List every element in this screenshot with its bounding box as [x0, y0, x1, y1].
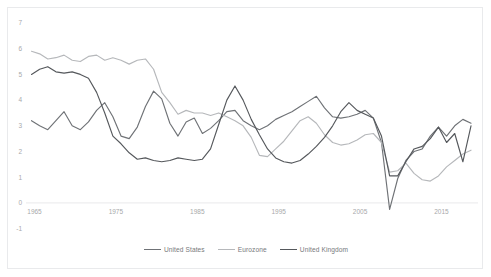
y-axis-tick-labels: 76543210-1 — [16, 19, 22, 232]
y-tick-label: 7 — [18, 19, 22, 26]
y-tick-label: 5 — [18, 71, 22, 78]
x-tick-label: 1975 — [109, 208, 124, 215]
x-axis-tick-labels: 196519751985199520052015 — [27, 208, 449, 215]
chart-frame: 76543210-1 196519751985199520052015 Unit… — [7, 7, 483, 269]
series-line-united-kingdom — [32, 67, 472, 176]
legend-item-united-states[interactable]: United States — [144, 246, 205, 253]
y-tick-label: 3 — [18, 122, 22, 129]
plot-area: 76543210-1 196519751985199520052015 — [8, 8, 484, 270]
y-tick-label: 6 — [18, 45, 22, 52]
legend-item-united-kingdom[interactable]: United Kingdom — [280, 246, 348, 253]
legend-label: United Kingdom — [300, 246, 348, 253]
y-tick-label: 2 — [18, 148, 22, 155]
x-tick-label: 1995 — [271, 208, 286, 215]
legend-line-swatch-icon — [280, 249, 297, 250]
y-tick-label: 1 — [18, 174, 22, 181]
x-tick-label: 1965 — [27, 208, 42, 215]
data-series-group — [32, 51, 472, 209]
legend-line-swatch-icon — [144, 249, 161, 250]
x-tick-label: 2015 — [434, 208, 449, 215]
line-chart: 76543210-1 196519751985199520052015 — [8, 8, 484, 270]
y-tick-label: -1 — [16, 225, 22, 232]
y-tick-label: 0 — [18, 199, 22, 206]
legend-label: Eurozone — [238, 246, 267, 253]
legend-line-swatch-icon — [218, 249, 235, 250]
legend-label: United States — [164, 246, 205, 253]
series-line-united-states — [32, 91, 472, 209]
legend-item-eurozone[interactable]: Eurozone — [218, 246, 267, 253]
x-tick-label: 1985 — [190, 208, 205, 215]
chart-legend: United StatesEurozoneUnited Kingdom — [8, 246, 484, 253]
y-tick-label: 4 — [18, 96, 22, 103]
x-tick-label: 2005 — [353, 208, 368, 215]
